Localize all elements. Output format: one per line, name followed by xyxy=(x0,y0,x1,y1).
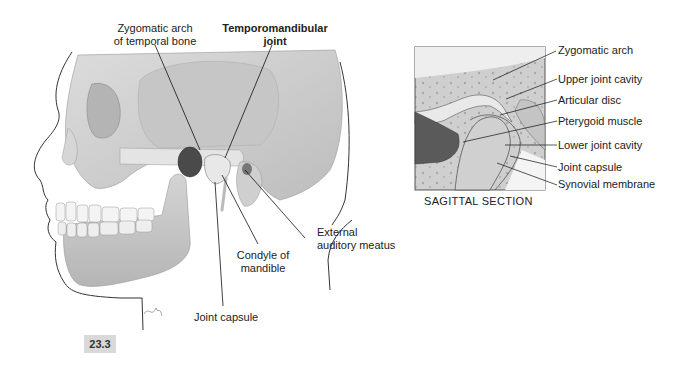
label-temporomandibular-joint: Temporomandibular joint xyxy=(220,22,330,48)
label-line: Condyle of xyxy=(233,249,293,262)
upper-teeth xyxy=(56,202,154,222)
label-zygomatic-arch-temporal: Zygomatic arch of temporal bone xyxy=(110,22,200,48)
label-sagittal-upper-joint-cavity: Upper joint cavity xyxy=(558,73,642,86)
label-line: Zygomatic arch xyxy=(110,22,200,35)
label-line: External xyxy=(317,226,395,239)
styloid-process xyxy=(222,178,226,210)
temporal-fossa xyxy=(138,61,279,148)
label-sagittal-pterygoid-muscle: Pterygoid muscle xyxy=(558,115,642,128)
label-sagittal-lower-joint-cavity: Lower joint cavity xyxy=(558,139,642,152)
sagittal-section-caption: SAGITTAL SECTION xyxy=(424,195,533,207)
label-line: joint xyxy=(220,35,330,48)
label-line: of temporal bone xyxy=(110,35,200,48)
label-sagittal-zygomatic-arch: Zygomatic arch xyxy=(558,44,633,57)
label-joint-capsule-lateral: Joint capsule xyxy=(194,311,258,324)
label-line: auditory meatus xyxy=(317,239,395,252)
figure-number-badge: 23.3 xyxy=(84,335,116,353)
label-line: Temporomandibular xyxy=(220,22,330,35)
label-sagittal-articular-disc: Articular disc xyxy=(558,94,621,107)
label-sagittal-joint-capsule: Joint capsule xyxy=(558,161,622,174)
label-condyle-of-mandible: Condyle of mandible xyxy=(233,249,293,275)
label-external-auditory-meatus: External auditory meatus xyxy=(317,226,395,252)
artist-signature xyxy=(144,308,162,316)
sagittal-section-inset xyxy=(415,47,545,190)
label-line: mandible xyxy=(233,262,293,275)
label-sagittal-synovial-membrane: Synovial membrane xyxy=(558,178,655,191)
pterygoid-muscle-lateral xyxy=(178,147,202,177)
external-auditory-meatus-opening xyxy=(242,163,252,175)
